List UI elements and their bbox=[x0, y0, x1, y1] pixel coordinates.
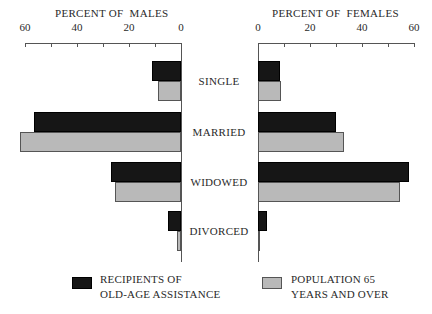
axis-tick-label: 0 bbox=[255, 21, 261, 33]
axis-tick bbox=[284, 43, 285, 47]
legend-line: OLD-AGE ASSISTANCE bbox=[100, 287, 220, 302]
female-recipients-bar-married bbox=[258, 112, 336, 132]
females-axis-title: PERCENT OF FEMALES bbox=[272, 7, 399, 19]
male-population-bar-divorced bbox=[177, 231, 181, 251]
males-axis-title: PERCENT OF MALES bbox=[55, 7, 168, 19]
axis-tick-label: 20 bbox=[305, 21, 316, 33]
axis-tick-label: 60 bbox=[409, 21, 420, 33]
axis-tick bbox=[77, 43, 78, 47]
legend-label-recipients: RECIPIENTS OFOLD-AGE ASSISTANCE bbox=[100, 272, 220, 302]
male-recipients-bar-single bbox=[152, 61, 181, 81]
female-recipients-bar-single bbox=[258, 61, 280, 81]
axis-tick bbox=[362, 43, 363, 47]
axis-tick bbox=[155, 43, 156, 47]
male-population-bar-single bbox=[158, 81, 181, 101]
axis-tick bbox=[129, 43, 130, 47]
category-label-widowed: WIDOWED bbox=[190, 176, 247, 188]
female-population-bar-single bbox=[258, 81, 281, 101]
male-recipients-bar-widowed bbox=[111, 162, 181, 182]
female-population-bar-widowed bbox=[258, 182, 400, 202]
males-baseline bbox=[181, 43, 182, 262]
axis-tick-label: 40 bbox=[357, 21, 368, 33]
female-recipients-bar-divorced bbox=[258, 211, 267, 231]
axis-tick bbox=[414, 43, 415, 47]
axis-tick-label: 40 bbox=[72, 21, 83, 33]
axis-tick bbox=[25, 43, 26, 47]
axis-tick-label: 20 bbox=[124, 21, 135, 33]
male-population-bar-widowed bbox=[115, 182, 181, 202]
category-label-married: MARRIED bbox=[193, 126, 246, 138]
legend-swatch-recipients bbox=[72, 277, 92, 289]
axis-tick bbox=[258, 43, 259, 47]
axis-tick-label: 60 bbox=[20, 21, 31, 33]
female-recipients-bar-widowed bbox=[258, 162, 409, 182]
legend-line: RECIPIENTS OF bbox=[100, 272, 220, 287]
axis-tick bbox=[103, 43, 104, 47]
female-population-bar-divorced bbox=[258, 231, 260, 251]
axis-tick bbox=[181, 43, 182, 47]
legend-swatch-population bbox=[262, 277, 282, 289]
axis-tick bbox=[51, 43, 52, 47]
axis-tick bbox=[310, 43, 311, 47]
legend-line: POPULATION 65 bbox=[291, 272, 389, 287]
category-label-single: SINGLE bbox=[199, 75, 240, 87]
male-recipients-bar-divorced bbox=[168, 211, 181, 231]
legend-line: YEARS AND OVER bbox=[291, 287, 389, 302]
female-population-bar-married bbox=[258, 132, 344, 152]
axis-tick bbox=[388, 43, 389, 47]
axis-tick bbox=[336, 43, 337, 47]
male-population-bar-married bbox=[20, 132, 181, 152]
legend-label-population: POPULATION 65YEARS AND OVER bbox=[291, 272, 389, 302]
category-label-divorced: DIVORCED bbox=[189, 225, 248, 237]
male-recipients-bar-married bbox=[34, 112, 181, 132]
axis-tick-label: 0 bbox=[178, 21, 184, 33]
